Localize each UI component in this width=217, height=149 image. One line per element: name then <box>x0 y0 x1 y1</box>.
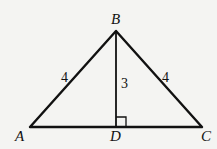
right-angle-marker <box>116 117 126 127</box>
vertex-label-d: D <box>109 128 121 144</box>
vertex-label-b: B <box>111 11 120 27</box>
length-label-bc: 4 <box>162 70 169 85</box>
triangle-diagram: B A D C 4 4 3 <box>0 0 217 149</box>
vertex-label-c: C <box>201 128 212 144</box>
length-label-bd: 3 <box>121 76 128 91</box>
vertex-label-a: A <box>14 128 25 144</box>
length-label-ab: 4 <box>61 70 68 85</box>
